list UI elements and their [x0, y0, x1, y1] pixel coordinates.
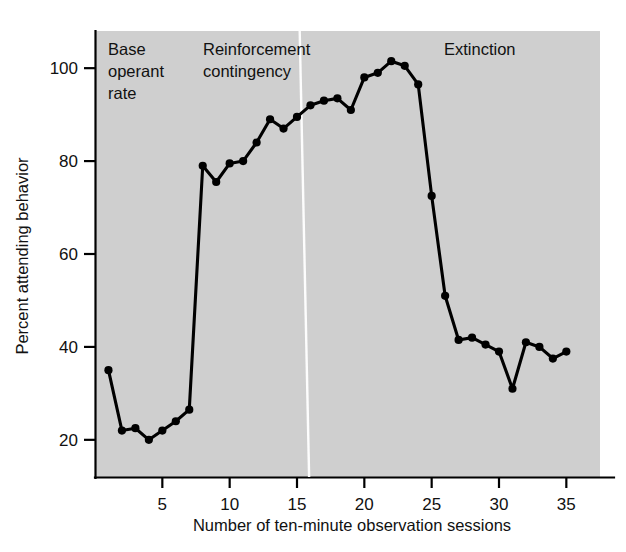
x-axis-ticks — [162, 477, 566, 488]
data-point — [508, 385, 516, 393]
phase-label-reinforcement-line2: contingency — [203, 62, 292, 80]
data-point — [495, 347, 503, 355]
data-point — [320, 97, 328, 105]
y-tick-label-100: 100 — [50, 59, 78, 78]
phase-label-baseline-line1: Base — [108, 40, 146, 58]
x-tick-label-15: 15 — [288, 495, 307, 514]
data-point — [158, 426, 166, 434]
y-axis-tick-labels: 20406080100 — [50, 59, 78, 450]
data-point — [104, 366, 112, 374]
phase-label-baseline-line3: rate — [108, 84, 136, 102]
data-point — [199, 162, 207, 170]
x-axis-title: Number of ten-minute observation session… — [193, 516, 511, 534]
data-point — [468, 334, 476, 342]
data-point — [185, 406, 193, 414]
data-point — [374, 69, 382, 77]
phase-label-reinforcement-line1: Reinforcement — [203, 40, 311, 58]
data-point — [266, 115, 274, 123]
attending-behavior-line-chart: 20406080100 5101520253035 Number of ten-… — [0, 0, 626, 552]
data-point — [414, 80, 422, 88]
data-point — [131, 424, 139, 432]
data-point — [549, 354, 557, 362]
data-point — [333, 94, 341, 102]
x-tick-label-30: 30 — [490, 495, 509, 514]
y-tick-label-80: 80 — [59, 152, 78, 171]
data-point — [226, 159, 234, 167]
x-tick-label-35: 35 — [557, 495, 576, 514]
data-point — [562, 347, 570, 355]
x-axis-tick-labels: 5101520253035 — [158, 495, 576, 514]
phase-label-extinction: Extinction — [444, 40, 516, 58]
plot-area-background — [95, 31, 600, 477]
y-tick-label-40: 40 — [59, 338, 78, 357]
data-point — [428, 192, 436, 200]
figure-container: 20406080100 5101520253035 Number of ten-… — [0, 0, 626, 552]
data-point — [522, 338, 530, 346]
data-point — [347, 106, 355, 114]
data-point — [306, 101, 314, 109]
data-point — [145, 436, 153, 444]
data-point — [360, 73, 368, 81]
data-point — [118, 426, 126, 434]
y-axis-title: Percent attending behavior — [13, 157, 31, 355]
x-tick-label-5: 5 — [158, 495, 167, 514]
data-point — [401, 62, 409, 70]
y-tick-label-20: 20 — [59, 431, 78, 450]
data-point — [253, 138, 261, 146]
data-point — [535, 343, 543, 351]
x-tick-label-20: 20 — [355, 495, 374, 514]
x-tick-label-25: 25 — [422, 495, 441, 514]
data-point — [481, 340, 489, 348]
data-point — [172, 417, 180, 425]
phase-label-baseline-line2: operant — [108, 62, 164, 80]
data-point — [441, 292, 449, 300]
data-point — [455, 336, 463, 344]
data-point — [387, 57, 395, 65]
data-point — [239, 157, 247, 165]
data-point — [279, 124, 287, 132]
x-tick-label-10: 10 — [220, 495, 239, 514]
data-point — [212, 178, 220, 186]
y-tick-label-60: 60 — [59, 245, 78, 264]
data-point — [293, 113, 301, 121]
y-axis-ticks — [84, 68, 95, 440]
